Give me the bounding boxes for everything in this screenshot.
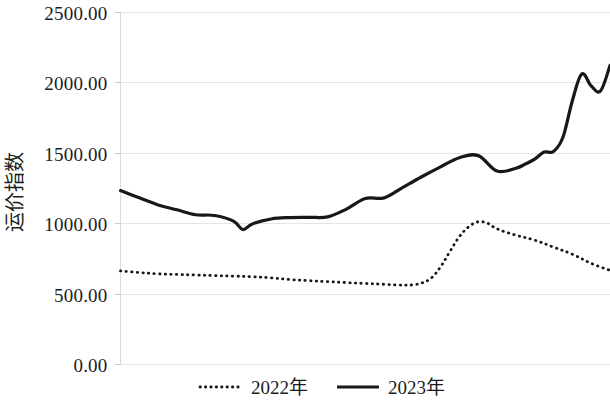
axis-tick-marks — [115, 13, 121, 365]
y-axis-title: 运价指数 — [3, 152, 27, 232]
data-series — [121, 66, 610, 286]
y-axis-tick-labels: 0.00500.001000.001500.002000.002500.00 — [44, 3, 107, 376]
legend-label-2023年: 2023年 — [388, 377, 445, 398]
legend-label-2022年: 2022年 — [251, 377, 308, 398]
y-tick-label: 0.00 — [73, 355, 107, 376]
chart-canvas: 0.00500.001000.001500.002000.002500.00 运… — [0, 0, 610, 407]
gridlines — [121, 13, 610, 365]
series-line-2022年 — [121, 222, 610, 286]
freight-rate-index-chart: 0.00500.001000.001500.002000.002500.00 运… — [0, 0, 610, 407]
chart-legend: 2022年2023年 — [200, 377, 445, 398]
y-tick-label: 500.00 — [54, 285, 107, 306]
y-tick-label: 2000.00 — [44, 73, 107, 94]
y-tick-label: 1500.00 — [44, 144, 107, 165]
series-line-2023年 — [121, 66, 610, 230]
y-tick-label: 1000.00 — [44, 214, 107, 235]
y-tick-label: 2500.00 — [44, 3, 107, 24]
